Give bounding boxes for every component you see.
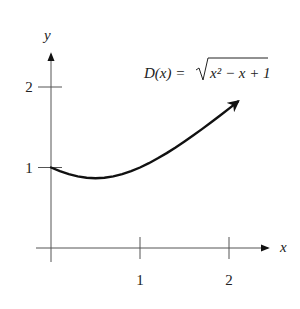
function-curve xyxy=(51,102,238,179)
function-radicand: x² − x + 1 xyxy=(209,65,271,81)
y-axis-label: y xyxy=(42,27,51,43)
function-lhs: D(x) = xyxy=(143,65,185,82)
x-axis-label: x xyxy=(279,239,287,255)
y-tick-label: 2 xyxy=(25,79,33,95)
function-plot: x y 12 12 D(x) = x² − x + 1 xyxy=(0,0,300,309)
x-ticks: 12 xyxy=(136,237,233,288)
x-tick-label: 1 xyxy=(136,272,144,288)
y-ticks: 12 xyxy=(25,79,62,176)
function-label: D(x) = x² − x + 1 xyxy=(143,58,271,82)
x-tick-label: 2 xyxy=(225,272,233,288)
y-tick-label: 1 xyxy=(25,160,33,176)
